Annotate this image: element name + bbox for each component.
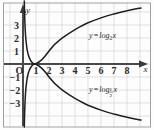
y-tick-labels-negative: −1 −2 −3 xyxy=(10,72,21,109)
y-tick-3: 3 xyxy=(14,20,19,31)
lower-label-equals: = xyxy=(93,85,98,94)
y-tick-labels-positive: 1 2 3 xyxy=(14,20,19,57)
y-tick-neg-3: −3 xyxy=(10,98,21,109)
x-tick-2: 2 xyxy=(47,65,52,76)
upper-label-func: log xyxy=(99,31,109,40)
y-tick-neg-2: −2 xyxy=(10,85,21,96)
curve-label-log-base-2: y=log2x xyxy=(88,31,117,41)
x-axis-label: x xyxy=(143,64,148,74)
lower-label-arg: x xyxy=(113,85,118,94)
svg-text:y=log2x: y=log2x xyxy=(88,31,117,41)
y-axis-label: y xyxy=(25,5,30,15)
x-tick-7: 7 xyxy=(112,65,117,76)
x-tick-3: 3 xyxy=(60,65,65,76)
x-tick-5: 5 xyxy=(86,65,91,76)
upper-label-equals: = xyxy=(93,31,98,40)
log-function-graph-figure: x y O 1 2 3 4 5 6 7 8 1 2 3 −1 −2 −3 xyxy=(0,0,154,130)
y-tick-1: 1 xyxy=(14,46,19,57)
lower-label-func: log xyxy=(99,85,109,94)
x-tick-4: 4 xyxy=(73,65,78,76)
x-tick-6: 6 xyxy=(99,65,104,76)
x-tick-1: 1 xyxy=(34,65,39,76)
x-tick-8: 8 xyxy=(125,65,130,76)
svg-text:y=log: y=log xyxy=(88,85,109,94)
upper-label-arg: x xyxy=(112,31,117,40)
y-tick-neg-1: −1 xyxy=(10,72,21,83)
y-tick-2: 2 xyxy=(14,33,19,44)
graph-canvas: x y O 1 2 3 4 5 6 7 8 1 2 3 −1 −2 −3 xyxy=(0,0,154,130)
